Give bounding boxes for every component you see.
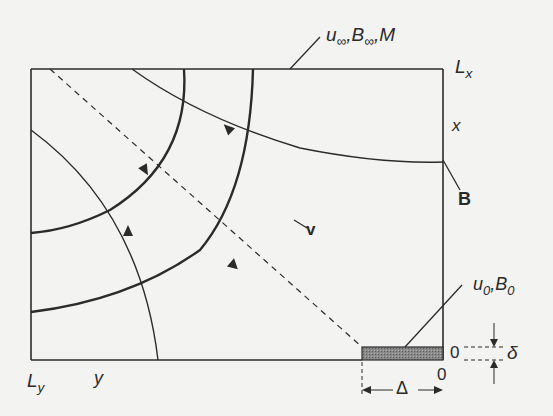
origin-x-label: 0 — [437, 365, 446, 385]
Delta-label: Δ — [396, 378, 408, 399]
domain-boundary — [31, 69, 443, 360]
y-axis-label: y — [94, 368, 103, 389]
dashed-diagonal — [50, 69, 362, 347]
arrow-icon — [123, 225, 133, 236]
Ly-label: Ly — [27, 370, 44, 395]
delta-label: δ — [507, 342, 518, 364]
origin-y-label: 0 — [450, 343, 459, 363]
v-field-label: v — [306, 220, 315, 240]
Lx-label: Lx — [455, 56, 472, 81]
delta-dimension — [464, 323, 505, 384]
arrow-icon — [227, 258, 242, 273]
plate — [362, 347, 443, 360]
leader-lines — [290, 37, 462, 347]
velocity-streamlines — [31, 69, 253, 312]
delta-arrowheads — [490, 339, 498, 368]
magnetic-field-lines — [31, 69, 443, 360]
B-field-label: B — [458, 189, 471, 210]
plate-label: u0,B0 — [473, 274, 514, 298]
arrowheads — [123, 124, 242, 273]
arrow-icon — [221, 124, 235, 137]
x-axis-label: x — [452, 116, 461, 136]
inflow-label: u∞,B∞,M — [326, 24, 395, 49]
